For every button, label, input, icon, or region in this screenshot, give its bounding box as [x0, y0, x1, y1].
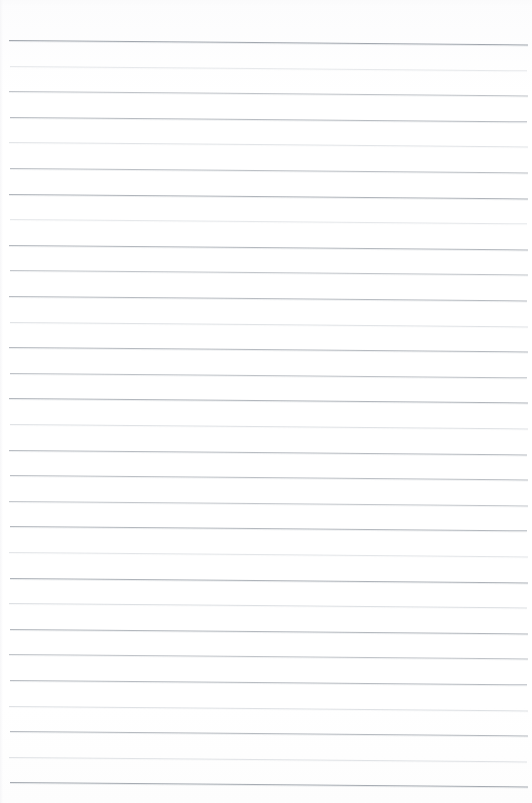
- rule-line: [9, 40, 528, 45]
- rule-line: [10, 475, 528, 480]
- rule-line: [10, 219, 527, 224]
- rule-line: [10, 322, 528, 327]
- rule-line: [10, 117, 527, 122]
- rule-line: [9, 245, 528, 250]
- page-top-edge-shadow: [0, 0, 532, 6]
- rule-line: [9, 552, 528, 557]
- rule-line: [10, 782, 528, 787]
- rule-line: [10, 270, 528, 275]
- rule-line: [10, 424, 528, 429]
- rule-line: [9, 603, 527, 608]
- rule-line: [10, 526, 527, 531]
- rule-line: [9, 296, 527, 301]
- rule-line: [9, 654, 528, 659]
- rule-line: [9, 706, 528, 711]
- rule-line: [9, 757, 527, 762]
- rule-line: [9, 398, 528, 403]
- rule-line: [10, 680, 527, 685]
- rule-line: [10, 373, 527, 378]
- rule-line: [10, 66, 527, 71]
- rule-line: [10, 578, 528, 583]
- page-left-edge-shadow: [0, 0, 3, 803]
- rule-line: [10, 629, 528, 634]
- rule-line: [9, 194, 528, 199]
- rule-line: [9, 501, 528, 506]
- rule-line: [9, 91, 528, 96]
- rule-line: [10, 731, 528, 736]
- rule-line: [9, 450, 527, 455]
- scanned-page: [0, 0, 532, 803]
- rule-line: [10, 168, 528, 173]
- rule-line: [9, 347, 528, 352]
- rule-line: [9, 142, 528, 147]
